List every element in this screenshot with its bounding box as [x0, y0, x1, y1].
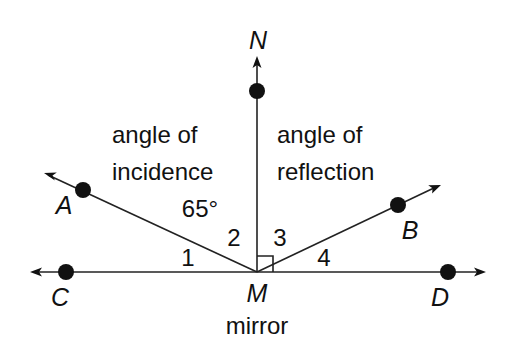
- incidence-text-line1: angle of: [112, 121, 198, 148]
- reflection-text-line1: angle of: [277, 121, 363, 148]
- arrowhead-a-icon: [44, 173, 57, 181]
- point-n-dot: [249, 83, 265, 99]
- label-c: C: [51, 283, 70, 311]
- incidence-text-line2: incidence: [112, 158, 213, 185]
- angle-label-4: 4: [317, 244, 330, 271]
- label-b: B: [402, 216, 419, 244]
- angle-label-2: 2: [227, 224, 240, 251]
- label-n: N: [249, 26, 268, 54]
- reflection-text-line2: reflection: [277, 158, 374, 185]
- angle-label-3: 3: [273, 224, 286, 251]
- point-c-dot: [58, 264, 74, 280]
- point-d-dot: [440, 264, 456, 280]
- point-a-dot: [75, 182, 91, 198]
- angle-label-1: 1: [181, 244, 194, 271]
- right-angle-marker: [257, 256, 273, 272]
- point-b-dot: [390, 197, 406, 213]
- label-a: A: [54, 191, 73, 219]
- label-m: M: [247, 279, 268, 307]
- angle-diagram: N A B C D M angle of incidence 65° angle…: [0, 0, 507, 363]
- label-d: D: [431, 283, 449, 311]
- diagram-canvas: N A B C D M angle of incidence 65° angle…: [0, 0, 507, 363]
- incidence-value: 65°: [182, 195, 218, 222]
- mirror-text: mirror: [226, 312, 289, 339]
